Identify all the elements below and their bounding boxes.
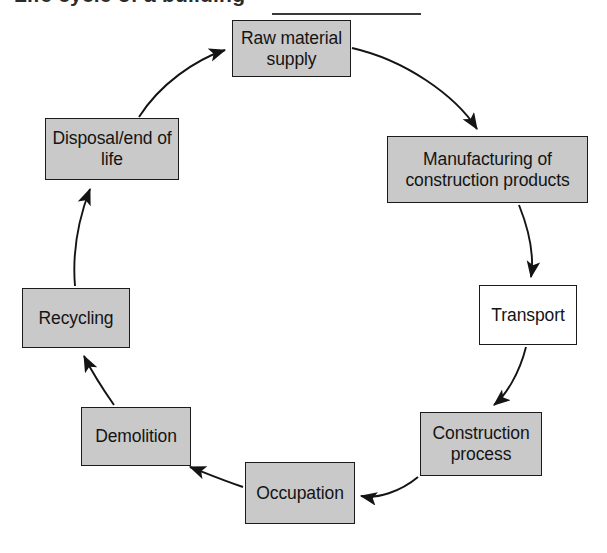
node-manufacturing-of-construction-products[interactable]: Manufacturing of construction products bbox=[387, 136, 588, 203]
arrow-occupation-to-demolition bbox=[190, 467, 243, 487]
node-demolition[interactable]: Demolition bbox=[81, 407, 191, 466]
arrow-construction-to-occupation bbox=[361, 477, 418, 497]
life-cycle-diagram: Life cycle of a building Raw material su… bbox=[0, 0, 607, 553]
node-occupation-label: Occupation bbox=[256, 483, 344, 504]
node-raw-material-supply-label: Raw material supply bbox=[237, 28, 346, 69]
node-demolition-label: Demolition bbox=[95, 426, 177, 447]
arrow-transport-to-construction bbox=[494, 347, 526, 405]
arrow-raw-to-manufacturing bbox=[352, 48, 477, 129]
node-disposal-end-of-life[interactable]: Disposal/end of life bbox=[45, 118, 179, 180]
node-disposal-end-of-life-label: Disposal/end of life bbox=[50, 128, 174, 169]
node-transport-label: Transport bbox=[491, 305, 564, 326]
node-transport[interactable]: Transport bbox=[479, 285, 577, 345]
node-construction-process[interactable]: Construction process bbox=[420, 412, 542, 476]
node-recycling[interactable]: Recycling bbox=[22, 288, 130, 348]
node-manufacturing-of-construction-products-label: Manufacturing of construction products bbox=[392, 149, 583, 190]
arrow-manufacturing-to-transport bbox=[519, 205, 532, 277]
node-occupation[interactable]: Occupation bbox=[245, 462, 355, 524]
node-recycling-label: Recycling bbox=[39, 308, 114, 329]
node-construction-process-label: Construction process bbox=[425, 423, 537, 464]
arrow-demolition-to-recycling bbox=[84, 356, 114, 405]
arrow-disposal-to-raw bbox=[139, 50, 225, 117]
arrow-recycling-to-disposal bbox=[74, 189, 90, 286]
node-raw-material-supply[interactable]: Raw material supply bbox=[232, 20, 351, 77]
